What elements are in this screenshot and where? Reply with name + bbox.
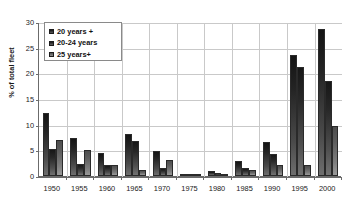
bar-1995-series-2	[297, 67, 304, 176]
gridline-horizontal	[39, 177, 342, 178]
bar-1985-series-3	[249, 170, 256, 176]
legend-swatch-icon	[49, 41, 54, 46]
bar-1955-series-2	[77, 164, 84, 176]
bar-1980-series-2	[215, 173, 222, 176]
bar-1995-series-3	[304, 165, 311, 176]
bar-1950-series-1	[43, 113, 50, 176]
bar-1965-series-3	[139, 170, 146, 176]
y-axis-tick-label: 0	[8, 173, 34, 181]
legend-item[interactable]: 25 years+	[49, 49, 121, 60]
bar-2000-series-1	[318, 29, 325, 176]
legend-swatch-icon	[49, 29, 54, 34]
y-axis-tick-label: 25	[8, 45, 34, 53]
legend-item[interactable]: 20-24 years	[49, 38, 121, 49]
bar-2000-series-3	[332, 126, 339, 176]
bar-1990-series-2	[270, 154, 277, 176]
bar-1980-series-1	[208, 171, 215, 176]
legend-item[interactable]: 20 years +	[49, 26, 121, 37]
bar-1955-series-1	[70, 138, 77, 176]
bar-chart: % of total fleet 051015202530 1950195519…	[0, 0, 349, 207]
bar-1995-series-1	[290, 55, 297, 176]
bar-1990-series-1	[263, 142, 270, 176]
bar-1970-series-1	[153, 151, 160, 176]
bar-1985-series-2	[242, 168, 249, 176]
bar-1970-series-2	[160, 168, 167, 176]
legend-label: 20-24 years	[57, 39, 97, 47]
bar-1975-series-3	[194, 174, 201, 176]
legend: 20 years + 20-24 years 25 years+	[44, 22, 122, 61]
bar-1965-series-2	[132, 141, 139, 176]
bar-1970-series-3	[166, 160, 173, 176]
bar-1965-series-1	[125, 134, 132, 176]
legend-label: 25 years+	[57, 51, 91, 59]
bar-1955-series-3	[84, 150, 91, 176]
bar-1950-series-3	[56, 140, 63, 176]
y-axis-tick-label: 10	[8, 122, 34, 130]
x-axis-tick-label: 2000	[307, 184, 347, 193]
bar-1985-series-1	[235, 161, 242, 176]
bar-1980-series-3	[221, 174, 228, 176]
legend-label: 20 years +	[57, 28, 93, 36]
y-axis-tick-label: 5	[8, 147, 34, 155]
bar-1975-series-1	[180, 174, 187, 176]
bar-1960-series-2	[104, 165, 111, 176]
y-axis-tick-label: 20	[8, 70, 34, 78]
bar-2000-series-2	[325, 81, 332, 176]
bar-1950-series-2	[49, 149, 56, 176]
legend-swatch-icon	[49, 52, 54, 57]
bar-1960-series-1	[98, 153, 105, 176]
y-axis-tick-label: 30	[8, 19, 34, 27]
bar-1960-series-3	[111, 165, 118, 176]
y-axis-tick-label: 15	[8, 96, 34, 104]
bar-1975-series-2	[187, 174, 194, 176]
bar-1990-series-3	[277, 165, 284, 176]
